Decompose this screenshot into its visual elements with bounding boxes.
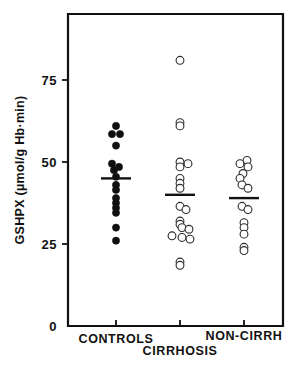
data-point-layer <box>108 56 252 269</box>
group-label-non-cirrh: NON-CIRRH <box>206 329 283 343</box>
y-axis-tick-labels: 0255075 <box>42 73 57 334</box>
data-point <box>236 160 244 168</box>
data-point <box>108 131 115 138</box>
y-tick-label-50: 50 <box>42 155 57 170</box>
y-tick-label-0: 0 <box>49 319 57 334</box>
data-point <box>116 131 123 138</box>
figure-container: 0255075 GSHPX (µmol/g Hb·min) CONTROLS C… <box>0 0 298 372</box>
data-point <box>178 234 186 242</box>
y-axis-title-group: GSHPX (µmol/g Hb·min) <box>13 96 27 245</box>
data-point <box>182 206 190 214</box>
data-point <box>110 167 117 174</box>
data-point <box>186 235 194 243</box>
data-point <box>112 224 119 231</box>
x-axis-group-labels: CONTROLS CIRRHOSIS NON-CIRRH <box>79 329 283 358</box>
data-point <box>168 232 176 240</box>
scatter-plot: 0255075 GSHPX (µmol/g Hb·min) CONTROLS C… <box>0 0 298 372</box>
data-point <box>244 184 252 192</box>
data-point <box>112 237 119 244</box>
data-point <box>176 163 184 171</box>
data-point <box>176 122 184 130</box>
group-label-cirrhosis: CIRRHOSIS <box>143 344 218 358</box>
data-point <box>108 160 115 167</box>
data-point <box>176 184 184 192</box>
y-axis-title: GSHPX (µmol/g Hb·min) <box>13 96 27 245</box>
y-tick-label-25: 25 <box>42 237 57 252</box>
data-point <box>112 122 119 129</box>
y-tick-label-75: 75 <box>42 73 57 88</box>
data-point <box>240 230 248 238</box>
data-point <box>244 163 252 171</box>
data-point <box>184 160 192 168</box>
data-point <box>112 142 119 149</box>
data-point <box>176 56 184 64</box>
data-point <box>112 209 119 216</box>
data-point <box>185 225 193 233</box>
data-point <box>244 206 252 214</box>
data-point <box>240 247 248 255</box>
data-point <box>176 261 184 269</box>
data-point <box>112 186 119 193</box>
